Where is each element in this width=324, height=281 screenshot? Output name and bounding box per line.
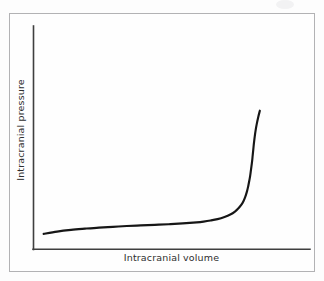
y-axis-label: Intracranial pressure bbox=[15, 79, 27, 181]
figure-container: Intracranial volume Intracranial pressur… bbox=[0, 0, 324, 281]
pressure-volume-curve bbox=[44, 111, 260, 234]
chart-plot-area bbox=[0, 0, 324, 281]
x-axis-label: Intracranial volume bbox=[33, 252, 310, 264]
